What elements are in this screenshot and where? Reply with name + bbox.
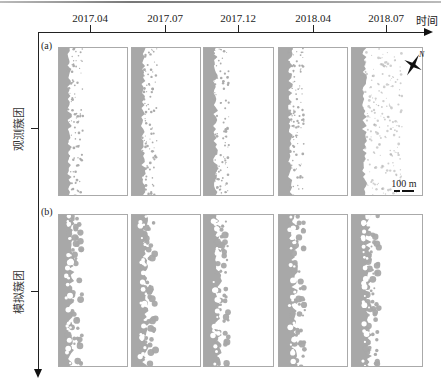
row-tag-a: (a) — [41, 40, 52, 51]
observed-panel-2 — [131, 47, 201, 196]
observed-panel-3 — [203, 47, 274, 196]
simulated-panel-4 — [278, 214, 348, 367]
time-tick — [313, 25, 314, 33]
row-tick — [31, 128, 39, 129]
row-tick — [31, 291, 39, 292]
time-arrow-icon — [424, 28, 433, 36]
scale-bar: 100 m — [386, 178, 422, 192]
svg-text:N: N — [418, 50, 425, 59]
simulated-panel-1 — [58, 214, 128, 367]
scale-bar-label: 100 m — [391, 178, 416, 189]
simulated-panel-3 — [203, 214, 274, 367]
time-tick-label: 2018.07 — [356, 12, 416, 24]
north-arrow-icon: N — [400, 48, 426, 78]
time-tick-label: 2017.12 — [208, 12, 268, 24]
time-tick-label: 2017.07 — [135, 12, 195, 24]
row-axis — [38, 32, 39, 370]
row-tag-b: (b) — [41, 206, 53, 217]
observed-panel-4 — [278, 47, 348, 196]
time-tick-label: 2018.04 — [283, 12, 343, 24]
top-rule — [0, 1, 441, 3]
simulated-panel-2 — [131, 214, 201, 367]
time-axis — [38, 32, 426, 33]
time-tick — [90, 25, 91, 33]
row-axis-arrow-icon — [34, 369, 42, 378]
time-tick — [238, 25, 239, 33]
simulated-panel-5 — [351, 214, 423, 367]
time-axis-label: 时间 — [416, 12, 438, 28]
scale-bar-line — [394, 190, 414, 192]
time-tick — [386, 25, 387, 33]
observed-panel-1 — [58, 47, 128, 196]
time-tick-label: 2017.04 — [60, 12, 120, 24]
row-label-simulated: 模拟簇团 — [10, 262, 26, 322]
time-tick — [165, 25, 166, 33]
row-label-observed: 观测簇团 — [10, 99, 26, 159]
